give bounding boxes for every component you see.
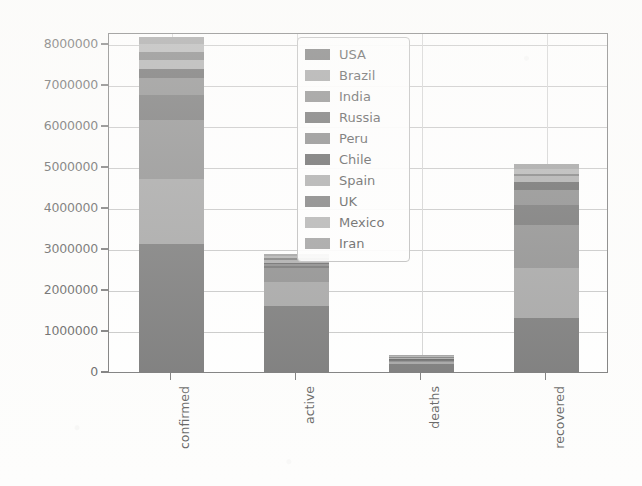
y-axis-tick-label: 2000000: [44, 282, 98, 297]
y-axis-tick-mark: [101, 289, 108, 291]
legend-item-mexico[interactable]: Mexico: [305, 212, 402, 233]
bar-segment-confirmed-spain[interactable]: [139, 60, 204, 69]
legend-item-iran[interactable]: Iran: [305, 233, 402, 254]
y-axis-tick-mark: [101, 166, 108, 168]
y-axis-tick-mark: [101, 43, 108, 45]
bar-segment-active-peru[interactable]: [264, 264, 329, 265]
x-axis-tick-mark: [170, 373, 172, 380]
bar-segment-confirmed-mexico[interactable]: [139, 44, 204, 52]
x-axis-tick-mark: [295, 373, 297, 380]
bar-segment-recovered-usa[interactable]: [514, 318, 579, 372]
legend-item-label: USA: [339, 48, 366, 61]
bar-segment-confirmed-brazil[interactable]: [139, 179, 204, 244]
y-axis-tick-label: 1000000: [44, 323, 98, 338]
legend-item-label: Brazil: [339, 69, 375, 82]
bar-segment-confirmed-india[interactable]: [139, 120, 204, 179]
bar-segment-deaths-brazil[interactable]: [389, 362, 454, 365]
bar-segment-deaths-mexico[interactable]: [389, 356, 454, 357]
vertical-gridline: [422, 34, 423, 372]
bar-segment-recovered-uk[interactable]: [514, 174, 579, 176]
bar-segment-deaths-uk[interactable]: [389, 357, 454, 358]
y-axis-tick-mark: [101, 371, 108, 373]
chart-legend[interactable]: USABrazilIndiaRussiaPeruChileSpainUKMexi…: [297, 37, 410, 262]
bar-segment-active-russia[interactable]: [264, 266, 329, 269]
legend-swatch-icon: [305, 112, 330, 123]
y-axis-tick-mark: [101, 84, 108, 86]
legend-item-label: Spain: [339, 174, 375, 187]
y-axis-tick-label: 6000000: [44, 118, 98, 133]
bar-segment-confirmed-uk[interactable]: [139, 52, 204, 60]
legend-item-russia[interactable]: Russia: [305, 107, 402, 128]
legend-item-label: Peru: [339, 132, 368, 145]
y-axis-tick-mark: [101, 125, 108, 127]
y-axis-tick-mark: [101, 330, 108, 332]
bar-recovered[interactable]: [514, 164, 579, 373]
legend-item-uk[interactable]: UK: [305, 191, 402, 212]
x-axis-tick-mark: [420, 373, 422, 380]
bar-segment-active-chile[interactable]: [264, 263, 329, 264]
bar-segment-recovered-mexico[interactable]: [514, 169, 579, 174]
bar-segment-confirmed-usa[interactable]: [139, 244, 204, 372]
legend-swatch-icon: [305, 49, 330, 60]
legend-item-label: UK: [339, 195, 357, 208]
legend-item-india[interactable]: India: [305, 86, 402, 107]
x-axis-tick-label-deaths: deaths: [427, 386, 442, 429]
x-axis-tick-label-confirmed: confirmed: [177, 386, 192, 449]
legend-swatch-icon: [305, 217, 330, 228]
bar-segment-confirmed-chile[interactable]: [139, 69, 204, 79]
legend-swatch-icon: [305, 91, 330, 102]
legend-item-usa[interactable]: USA: [305, 44, 402, 65]
bar-segment-confirmed-russia[interactable]: [139, 95, 204, 120]
x-axis-tick-label-active: active: [302, 386, 317, 424]
y-axis-tick-label: 8000000: [44, 36, 98, 51]
x-axis-tick-label-recovered: recovered: [552, 386, 567, 449]
bar-segment-recovered-chile[interactable]: [514, 182, 579, 190]
bar-segment-confirmed-peru[interactable]: [139, 78, 204, 94]
bar-segment-recovered-india[interactable]: [514, 225, 579, 268]
bar-deaths[interactable]: [389, 355, 454, 372]
bar-segment-recovered-russia[interactable]: [514, 205, 579, 226]
chart-page: 8000000700000060000005000000400000030000…: [0, 0, 642, 486]
legend-swatch-icon: [305, 70, 330, 81]
legend-item-peru[interactable]: Peru: [305, 128, 402, 149]
legend-swatch-icon: [305, 238, 330, 249]
bar-segment-active-brazil[interactable]: [264, 282, 329, 307]
legend-item-label: Chile: [339, 153, 372, 166]
bar-segment-active-india[interactable]: [264, 268, 329, 281]
legend-item-chile[interactable]: Chile: [305, 149, 402, 170]
legend-item-brazil[interactable]: Brazil: [305, 65, 402, 86]
y-axis-tick-label: 0: [90, 364, 98, 379]
y-axis-tick-mark: [101, 248, 108, 250]
legend-swatch-icon: [305, 133, 330, 144]
y-axis-tick-label: 5000000: [44, 159, 98, 174]
legend-swatch-icon: [305, 196, 330, 207]
legend-swatch-icon: [305, 154, 330, 165]
bar-segment-recovered-iran[interactable]: [514, 164, 579, 169]
bar-segment-recovered-peru[interactable]: [514, 190, 579, 204]
bar-segment-deaths-india[interactable]: [389, 360, 454, 361]
bar-segment-confirmed-iran[interactable]: [139, 37, 204, 44]
bar-segment-deaths-usa[interactable]: [389, 364, 454, 372]
bar-segment-recovered-spain[interactable]: [514, 176, 579, 182]
y-axis-tick-label: 4000000: [44, 200, 98, 215]
legend-item-spain[interactable]: Spain: [305, 170, 402, 191]
bar-segment-deaths-spain[interactable]: [389, 358, 454, 359]
legend-item-label: Russia: [339, 111, 381, 124]
bar-segment-active-usa[interactable]: [264, 306, 329, 372]
legend-item-label: Mexico: [339, 216, 384, 229]
y-axis-tick-labels: 8000000700000060000005000000400000030000…: [0, 0, 98, 486]
legend-item-label: Iran: [339, 237, 364, 250]
y-axis-tick-mark: [101, 207, 108, 209]
y-axis-tick-label: 7000000: [44, 77, 98, 92]
legend-swatch-icon: [305, 175, 330, 186]
bar-active[interactable]: [264, 254, 329, 372]
bar-confirmed[interactable]: [139, 37, 204, 373]
x-axis-tick-mark: [545, 373, 547, 380]
y-axis-tick-label: 3000000: [44, 241, 98, 256]
legend-item-label: India: [339, 90, 371, 103]
bar-segment-recovered-brazil[interactable]: [514, 268, 579, 318]
